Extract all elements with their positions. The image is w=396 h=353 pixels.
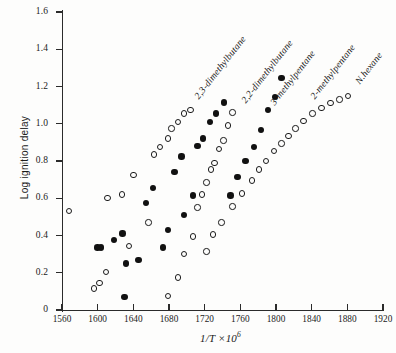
data-point bbox=[211, 160, 217, 166]
y-tick-mark bbox=[56, 11, 63, 12]
data-point bbox=[91, 285, 97, 291]
y-tick-label: 1.4 bbox=[0, 43, 48, 53]
data-point bbox=[285, 133, 291, 139]
data-point bbox=[203, 179, 209, 185]
data-point bbox=[227, 192, 233, 198]
data-point bbox=[271, 148, 277, 154]
data-point bbox=[309, 110, 315, 116]
data-point bbox=[210, 231, 216, 237]
data-point bbox=[292, 125, 298, 131]
data-point bbox=[265, 107, 271, 113]
data-point bbox=[143, 200, 149, 206]
data-point bbox=[178, 153, 184, 159]
data-point bbox=[200, 135, 206, 141]
data-point bbox=[175, 274, 181, 280]
data-point bbox=[98, 244, 104, 250]
data-point bbox=[168, 125, 174, 131]
data-point bbox=[327, 100, 333, 106]
data-point bbox=[165, 135, 171, 141]
data-point bbox=[207, 119, 213, 125]
data-point bbox=[145, 219, 151, 225]
data-point bbox=[345, 93, 351, 99]
data-point bbox=[229, 203, 235, 209]
series-annotation-label: N.hexane bbox=[353, 50, 385, 86]
data-point bbox=[251, 144, 257, 150]
x-tick-mark bbox=[382, 304, 383, 311]
x-axis-line bbox=[61, 310, 384, 311]
y-tick-mark bbox=[56, 86, 63, 87]
data-point bbox=[256, 166, 262, 172]
series-annotation-label: 2,2-dimethylbutane bbox=[239, 37, 295, 104]
y-tick-mark bbox=[56, 272, 63, 273]
x-tick-mark bbox=[347, 304, 348, 311]
data-point bbox=[135, 257, 141, 263]
x-tick-label: 1880 bbox=[327, 314, 367, 324]
data-point bbox=[126, 243, 132, 249]
data-point bbox=[190, 192, 196, 198]
data-point bbox=[157, 144, 163, 150]
data-point bbox=[336, 96, 342, 102]
data-point bbox=[150, 185, 156, 191]
data-point bbox=[221, 99, 227, 105]
data-point bbox=[96, 280, 102, 286]
data-point bbox=[208, 166, 214, 172]
data-point bbox=[123, 260, 129, 266]
data-point bbox=[263, 158, 269, 164]
data-point bbox=[121, 294, 127, 300]
data-point bbox=[103, 269, 109, 275]
data-point bbox=[66, 208, 72, 214]
x-tick-mark bbox=[97, 304, 98, 311]
x-tick-label: 1920 bbox=[363, 314, 396, 324]
x-tick-label: 1760 bbox=[220, 314, 260, 324]
data-point bbox=[165, 227, 171, 233]
x-tick-mark bbox=[204, 304, 205, 311]
x-tick-mark bbox=[133, 304, 134, 311]
data-point bbox=[199, 191, 205, 197]
x-tick-label: 1840 bbox=[292, 314, 332, 324]
y-tick-mark bbox=[56, 123, 63, 124]
data-point bbox=[165, 293, 171, 299]
data-point bbox=[216, 146, 222, 152]
y-axis-title: Log ignition delay bbox=[19, 88, 30, 228]
y-tick-mark bbox=[56, 49, 63, 50]
data-point bbox=[225, 122, 231, 128]
data-point bbox=[300, 118, 306, 124]
data-point bbox=[203, 248, 209, 254]
data-point bbox=[111, 237, 117, 243]
data-point bbox=[249, 177, 255, 183]
data-point bbox=[119, 191, 125, 197]
data-point bbox=[190, 233, 196, 239]
data-point bbox=[130, 172, 136, 178]
data-point bbox=[181, 251, 187, 257]
x-tick-mark bbox=[240, 304, 241, 311]
data-point bbox=[220, 137, 226, 143]
y-tick-label: 0.4 bbox=[0, 230, 48, 240]
data-point bbox=[258, 127, 264, 133]
data-point bbox=[239, 190, 245, 196]
x-tick-label: 1600 bbox=[78, 314, 118, 324]
x-tick-label: 1560 bbox=[42, 314, 82, 324]
data-point bbox=[194, 143, 200, 149]
data-point bbox=[151, 151, 157, 157]
data-point bbox=[119, 230, 125, 236]
x-axis-title: 1/T ×106 bbox=[200, 330, 241, 344]
data-point bbox=[171, 169, 177, 175]
x-tick-mark bbox=[168, 304, 169, 311]
data-point bbox=[160, 244, 166, 250]
y-tick-mark bbox=[56, 198, 63, 199]
data-point bbox=[318, 105, 324, 111]
y-tick-label: 0 bbox=[0, 304, 48, 314]
data-point bbox=[218, 219, 224, 225]
data-point bbox=[175, 119, 181, 125]
data-point bbox=[229, 109, 235, 115]
x-tick-label: 1720 bbox=[185, 314, 225, 324]
x-tick-mark bbox=[61, 304, 62, 311]
x-tick-label: 1800 bbox=[256, 314, 296, 324]
x-tick-label: 1680 bbox=[149, 314, 189, 324]
x-tick-mark bbox=[311, 304, 312, 311]
data-point bbox=[194, 204, 200, 210]
series-annotation-label: 2,3-dimethylbutane bbox=[192, 33, 248, 100]
series-annotation-label: 2-methylpentane bbox=[308, 42, 357, 101]
data-point bbox=[278, 140, 284, 146]
y-tick-mark bbox=[56, 160, 63, 161]
